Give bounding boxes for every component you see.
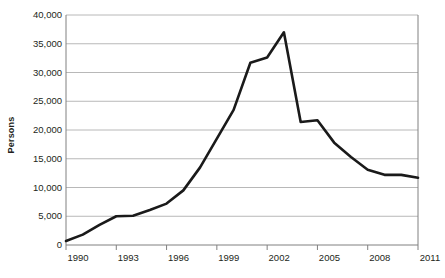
x-tick-label: 2008: [360, 252, 400, 263]
x-tick-label: 1999: [209, 252, 249, 263]
x-tick-label: 2005: [309, 252, 349, 263]
x-tick-label: 1993: [108, 252, 148, 263]
gridlines: [66, 15, 418, 216]
x-axis-ticks: [66, 245, 418, 250]
x-tick-label: 2002: [259, 252, 299, 263]
data-series-line: [66, 32, 418, 241]
x-tick-label: 2011: [410, 252, 445, 263]
x-tick-label: 1996: [159, 252, 199, 263]
x-tick-label: 1990: [58, 252, 98, 263]
